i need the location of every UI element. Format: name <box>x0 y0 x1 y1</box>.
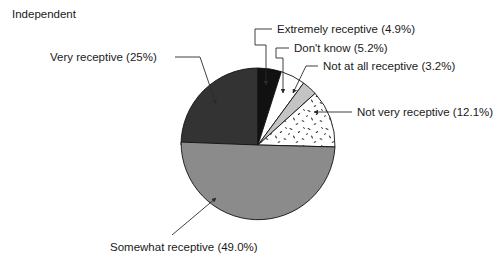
slice-label-dont-know: Don't know (5.2%) <box>294 42 388 54</box>
slice-label-somewhat-receptive: Somewhat receptive (49.0%) <box>110 241 258 253</box>
slice-label-extremely-receptive: Extremely receptive (4.9%) <box>277 23 415 35</box>
pie-slice-very-receptive <box>181 68 258 145</box>
leader-line-somewhat-receptive <box>172 198 216 235</box>
chart-title: Independent <box>12 8 77 20</box>
pie-chart-figure: Independent Very receptive (25%) Extreme… <box>0 0 502 265</box>
slice-label-not-very-receptive: Not very receptive (12.1%) <box>357 106 493 118</box>
slice-label-not-at-all-receptive: Not at all receptive (3.2%) <box>323 60 455 72</box>
pie-slices <box>181 68 335 220</box>
chart-canvas: Independent Very receptive (25%) Extreme… <box>0 0 502 265</box>
slice-label-very-receptive: Very receptive (25%) <box>50 51 157 63</box>
